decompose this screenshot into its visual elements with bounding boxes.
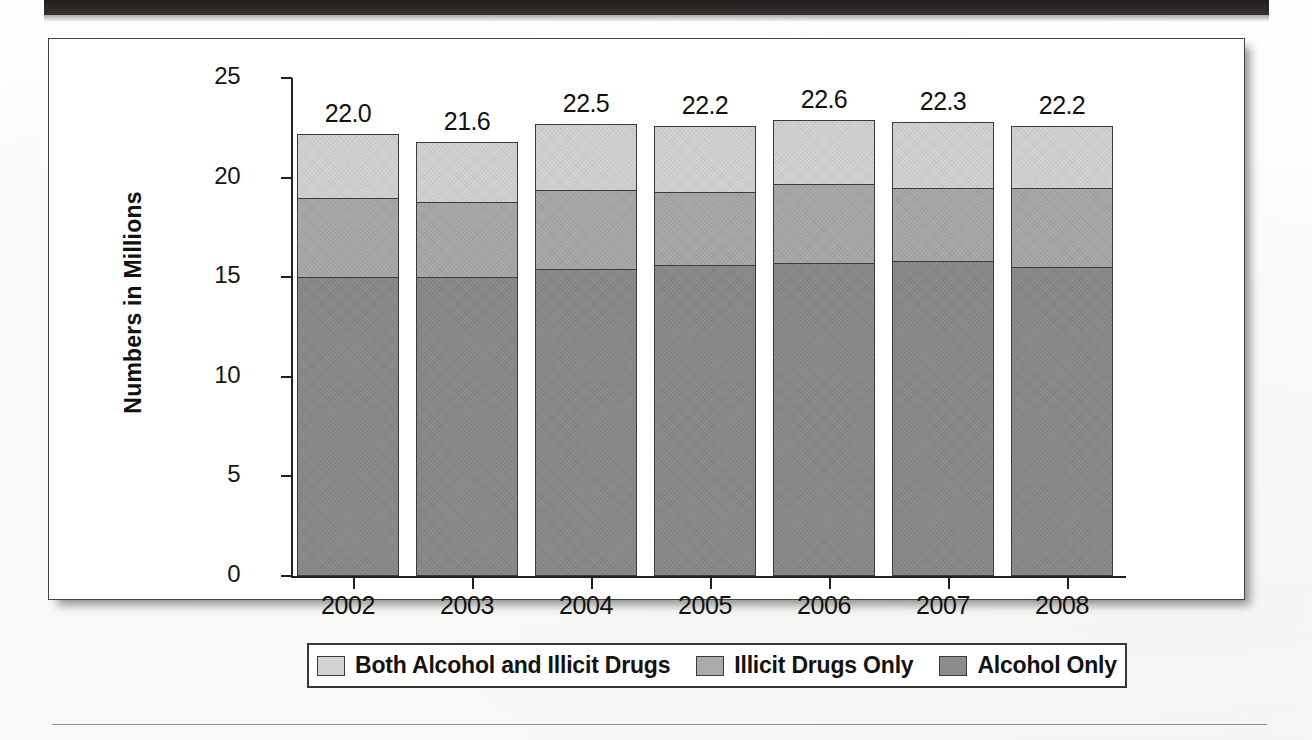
x-axis-tick-mark xyxy=(353,578,355,589)
y-axis-tick-mark xyxy=(281,77,292,79)
x-axis-label: 2003 xyxy=(416,591,518,620)
bar-segment-both-alcohol-and-illicit-drugs[interactable] xyxy=(773,120,875,184)
bar-total-label: 21.6 xyxy=(416,107,518,136)
bar-segment-both-alcohol-and-illicit-drugs[interactable] xyxy=(416,142,518,202)
x-axis-label: 2007 xyxy=(892,591,994,620)
bar-segment-both-alcohol-and-illicit-drugs[interactable] xyxy=(297,134,399,198)
y-axis-tick-mark xyxy=(281,575,292,577)
x-axis-line xyxy=(291,576,1126,578)
bar-stack xyxy=(773,120,875,576)
bar-segment-alcohol-only[interactable] xyxy=(773,263,875,576)
x-axis-tick-mark xyxy=(472,578,474,589)
y-axis-tick-label: 0 xyxy=(180,560,240,588)
legend-item[interactable]: Illicit Drugs Only xyxy=(696,652,913,679)
y-axis-tick-mark xyxy=(281,276,292,278)
x-axis-label: 2005 xyxy=(654,591,756,620)
page-footer-rule xyxy=(52,724,1267,725)
bar-stack xyxy=(1011,126,1113,576)
bar-segment-illicit-drugs-only[interactable] xyxy=(1011,188,1113,268)
x-axis-label: 2006 xyxy=(773,591,875,620)
bar-segment-alcohol-only[interactable] xyxy=(1011,267,1113,576)
y-axis-tick-mark xyxy=(281,177,292,179)
legend-item[interactable]: Alcohol Only xyxy=(939,652,1116,679)
x-axis-label: 2004 xyxy=(535,591,637,620)
y-axis-tick-mark xyxy=(281,475,292,477)
y-axis-tick-label: 10 xyxy=(180,361,240,389)
y-axis-line xyxy=(291,78,293,578)
y-axis-tick-mark xyxy=(281,376,292,378)
bar-segment-both-alcohol-and-illicit-drugs[interactable] xyxy=(535,124,637,190)
chart-legend: Both Alcohol and Illicit DrugsIllicit Dr… xyxy=(307,643,1127,688)
bar-segment-alcohol-only[interactable] xyxy=(416,277,518,576)
x-axis-label: 2002 xyxy=(297,591,399,620)
bar-stack xyxy=(654,126,756,576)
legend-swatch-icon xyxy=(696,656,724,676)
page-header-band xyxy=(44,0,1269,15)
bar-segment-illicit-drugs-only[interactable] xyxy=(416,202,518,278)
bar-stack xyxy=(416,142,518,576)
y-axis-tick-label: 25 xyxy=(180,62,240,90)
bar-segment-alcohol-only[interactable] xyxy=(654,265,756,576)
x-axis-tick-mark xyxy=(829,578,831,589)
bar-segment-both-alcohol-and-illicit-drugs[interactable] xyxy=(1011,126,1113,188)
legend-swatch-icon xyxy=(317,656,345,676)
bar-segment-illicit-drugs-only[interactable] xyxy=(654,192,756,266)
bar-total-label: 22.3 xyxy=(892,87,994,116)
bar-total-label: 22.2 xyxy=(1011,91,1113,120)
bar-total-label: 22.6 xyxy=(773,85,875,114)
x-axis-label: 2008 xyxy=(1011,591,1113,620)
bar-segment-illicit-drugs-only[interactable] xyxy=(773,184,875,264)
chart-frame: Numbers in Millions 0510152025 22.021.62… xyxy=(48,38,1245,600)
bar-segment-both-alcohol-and-illicit-drugs[interactable] xyxy=(892,122,994,188)
bar-segment-illicit-drugs-only[interactable] xyxy=(892,188,994,262)
bar-segment-illicit-drugs-only[interactable] xyxy=(535,190,637,270)
x-axis-tick-mark xyxy=(948,578,950,589)
x-axis-tick-mark xyxy=(1067,578,1069,589)
bar-total-label: 22.0 xyxy=(297,99,399,128)
bar-total-label: 22.5 xyxy=(535,89,637,118)
y-axis-title: Numbers in Millions xyxy=(120,153,147,453)
y-axis-tick-label: 5 xyxy=(180,460,240,488)
bar-segment-alcohol-only[interactable] xyxy=(535,269,637,576)
bar-segment-alcohol-only[interactable] xyxy=(297,277,399,576)
bar-stack xyxy=(535,124,637,576)
bar-total-label: 22.2 xyxy=(654,91,756,120)
legend-label: Illicit Drugs Only xyxy=(734,652,913,679)
bar-segment-both-alcohol-and-illicit-drugs[interactable] xyxy=(654,126,756,192)
legend-label: Alcohol Only xyxy=(977,652,1116,679)
x-axis-tick-mark xyxy=(591,578,593,589)
x-axis-tick-mark xyxy=(710,578,712,589)
bar-segment-illicit-drugs-only[interactable] xyxy=(297,198,399,278)
y-axis-tick-label: 15 xyxy=(180,261,240,289)
bar-stack xyxy=(892,122,994,576)
legend-label: Both Alcohol and Illicit Drugs xyxy=(355,652,670,679)
legend-swatch-icon xyxy=(939,656,967,676)
plot-area: Numbers in Millions 0510152025 22.021.62… xyxy=(49,39,1246,601)
bar-segment-alcohol-only[interactable] xyxy=(892,261,994,576)
y-axis-tick-label: 20 xyxy=(180,162,240,190)
legend-item[interactable]: Both Alcohol and Illicit Drugs xyxy=(317,652,670,679)
bar-stack xyxy=(297,134,399,576)
